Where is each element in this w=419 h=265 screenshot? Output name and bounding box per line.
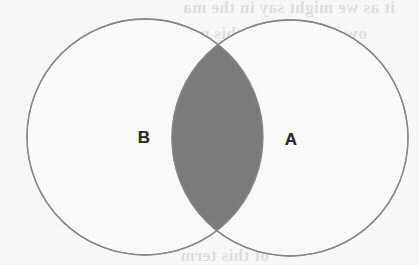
venn-diagram-canvas	[0, 0, 419, 265]
set-label-b: B	[138, 129, 150, 146]
scanned-figure-page: it as we might say in the ma ow. implies…	[0, 0, 419, 265]
venn-diagram: B A	[0, 0, 419, 265]
set-label-a: A	[285, 131, 297, 148]
